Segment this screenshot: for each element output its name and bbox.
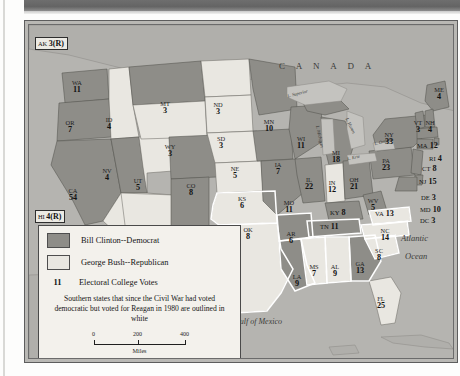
legend-label-democrat: Bill Clinton--Democrat <box>81 236 159 245</box>
state-label-vt: VT3 <box>414 119 423 134</box>
state-label-ri: RI 4 <box>429 154 442 163</box>
state-label-sc: SC8 <box>375 247 383 262</box>
state-label-id: ID4 <box>106 116 113 131</box>
state-votes: 3 <box>429 216 435 225</box>
state-abbr: MD <box>420 206 431 213</box>
state-votes: 3 <box>217 141 225 150</box>
state-votes: 11 <box>329 222 339 231</box>
state-votes: 7 <box>275 167 282 176</box>
state-votes: 4 <box>106 122 113 131</box>
state-label-ca: CA54 <box>69 187 78 202</box>
state-votes: 23 <box>382 163 390 172</box>
state-votes: 4 <box>436 154 442 163</box>
state-votes: 6 <box>287 236 296 245</box>
state-votes: 7 <box>66 125 75 134</box>
state-label-la: LA9 <box>293 273 302 288</box>
state-votes: 14 <box>381 233 390 242</box>
state-votes: 5 <box>134 183 143 192</box>
map-inner-frame: .dem{fill:#8e8d88;stroke:#55544f;stroke-… <box>28 24 454 359</box>
state-label-md: MD 10 <box>420 205 441 214</box>
state-votes: 8 <box>187 188 196 197</box>
state-votes: 8 <box>375 253 383 262</box>
state-label-ms: MS7 <box>309 263 318 278</box>
state-label-co: CO8 <box>187 182 196 197</box>
state-votes: 18 <box>332 155 340 164</box>
state-label-mi: MI18 <box>332 149 340 164</box>
state-votes: 3 <box>430 193 436 202</box>
state-label-ks: KS6 <box>238 195 246 210</box>
state-votes: 7 <box>309 269 318 278</box>
state-votes: 3 <box>213 107 222 116</box>
state-votes: 10 <box>431 205 441 214</box>
state-votes: 9 <box>293 279 302 288</box>
state-votes: 10 <box>264 124 274 133</box>
state-votes: 11 <box>72 85 82 94</box>
scale-line <box>94 344 186 345</box>
state-votes: 6 <box>238 201 246 210</box>
legend-votes-sample: 11 <box>47 277 68 287</box>
scale-bar-graphic <box>88 340 192 347</box>
state-votes: 5 <box>231 171 240 180</box>
left-page-rule <box>3 0 5 376</box>
label-canada: C A N A D A <box>279 61 376 71</box>
state-votes: 54 <box>69 193 78 202</box>
state-abbr: DC <box>420 217 429 224</box>
state-label-or: OR7 <box>66 119 75 134</box>
state-label-il: IL22 <box>305 176 313 191</box>
state-label-va: VA 13 <box>375 209 394 218</box>
state-label-in: IN12 <box>328 179 336 194</box>
state-abbr: DE <box>421 194 430 201</box>
state-label-ky: KY 8 <box>330 208 346 217</box>
state-label-wi: WI11 <box>297 135 305 150</box>
scale-unit-label: Miles <box>88 347 192 354</box>
state-label-nd: ND3 <box>213 101 222 116</box>
state-votes: 4 <box>434 92 444 101</box>
state-label-nv: NV4 <box>102 167 111 182</box>
state-label-ne: NE5 <box>231 165 240 180</box>
legend-label-votes: Electoral College Votes <box>79 278 158 287</box>
state-votes: 12 <box>428 141 438 150</box>
scale-tick-labels: 0200400 <box>88 331 192 339</box>
inset-alaska: AK 3(R) <box>35 37 68 50</box>
scale-tick-label-1: 200 <box>133 331 142 337</box>
state-label-mo: MO11 <box>284 199 294 214</box>
state-votes: 13 <box>355 266 364 275</box>
state-label-dc: DC 3 <box>420 216 435 225</box>
top-bar-shadow <box>24 11 460 14</box>
scale-tick-1 <box>138 340 139 345</box>
inset-hawaii: HI 4(R) <box>35 210 65 223</box>
state-label-ct: CT 8 <box>422 164 437 173</box>
state-abbr: VA <box>375 210 384 217</box>
inset-alaska-votes: 3(R) <box>49 39 64 48</box>
scale-bar: 0200400 Miles <box>88 331 192 354</box>
state-label-fl: FL25 <box>377 295 385 310</box>
scale-tick-0 <box>94 340 95 345</box>
scale-tick-2 <box>185 340 186 345</box>
state-abbr: TN <box>320 223 329 230</box>
state-label-ny: NY33 <box>384 131 393 146</box>
state-votes: 3 <box>160 106 170 115</box>
state-label-me: ME4 <box>434 86 444 101</box>
inset-hawaii-votes: 4(R) <box>46 212 61 221</box>
state-abbr: RI <box>429 155 436 162</box>
label-gulf-of-mexico: Gulf of Mexico <box>234 317 282 326</box>
legend-note: Southern states that since the Civil War… <box>47 294 232 324</box>
legend-swatch-democrat <box>47 233 70 248</box>
legend-swatch-republican <box>47 255 70 270</box>
state-label-ut: UT5 <box>134 177 143 192</box>
state-votes: 3 <box>414 125 423 134</box>
state-label-ok: OK8 <box>243 226 252 241</box>
state-label-tn: TN 11 <box>320 222 339 231</box>
state-votes: 8 <box>243 232 252 241</box>
state-votes: 15 <box>426 177 436 186</box>
state-abbr: MA <box>417 142 428 149</box>
map-legend: Bill Clinton--Democrat George Bush--Repu… <box>38 225 241 359</box>
state-label-nh: NH4 <box>425 119 434 134</box>
state-label-mt: MT3 <box>160 100 170 115</box>
state-votes: 25 <box>377 301 385 310</box>
state-votes: 4 <box>102 173 111 182</box>
state-label-sd: SD3 <box>217 135 225 150</box>
scale-tick-label-0: 0 <box>92 331 95 337</box>
legend-row-republican: George Bush--Republican <box>47 255 232 270</box>
top-decorative-bar <box>24 0 460 11</box>
